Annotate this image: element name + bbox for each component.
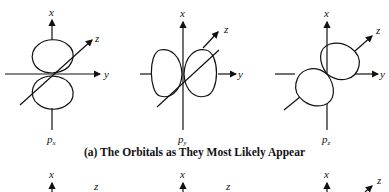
py-left-lobe bbox=[151, 50, 182, 97]
py-x-label: x bbox=[179, 7, 185, 19]
py-z-label: z bbox=[223, 23, 229, 35]
row-b-z-label-2: z bbox=[225, 180, 231, 192]
px-lower-lobe bbox=[32, 76, 73, 109]
pz-z-axis bbox=[355, 36, 372, 51]
px-y-label: y bbox=[103, 68, 109, 80]
py-orbital bbox=[140, 22, 236, 130]
row-b-z-label-1: z bbox=[93, 180, 99, 192]
pz-y-label: y bbox=[379, 68, 385, 80]
orbital-diagram: x z y px x z y py x z y pz x z x z x z bbox=[0, 0, 389, 192]
px-z-label: z bbox=[94, 32, 100, 44]
pz-x-label: x bbox=[323, 7, 329, 19]
py-label: py bbox=[177, 133, 188, 147]
pz-orbital bbox=[275, 22, 378, 130]
row-b-z-label-3: z bbox=[376, 174, 382, 186]
pz-label: pz bbox=[321, 133, 331, 147]
px-label: px bbox=[46, 133, 57, 147]
px-orbital bbox=[5, 20, 100, 130]
row-b-x-label-3: x bbox=[323, 168, 329, 180]
pz-z-label: z bbox=[375, 24, 381, 36]
row-b-axes bbox=[52, 183, 372, 192]
row-b-x-label-1: x bbox=[48, 168, 54, 180]
py-z-axis bbox=[203, 32, 218, 48]
py-y-label: y bbox=[237, 68, 243, 80]
pz-lower-lobe bbox=[296, 69, 334, 106]
px-upper-lobe bbox=[32, 40, 73, 73]
row-b-x-label-2: x bbox=[179, 168, 185, 180]
px-z-axis bbox=[20, 40, 92, 105]
px-x-label: x bbox=[48, 6, 54, 18]
caption-a: (a) The Orbitals as They Most Likely App… bbox=[0, 146, 389, 158]
pz-z-axis-lower bbox=[284, 97, 300, 110]
